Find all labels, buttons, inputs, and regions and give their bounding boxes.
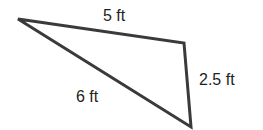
- side-label-hypotenuse: 6 ft: [76, 88, 99, 105]
- triangle: [18, 19, 191, 127]
- side-label-right: 2.5 ft: [199, 71, 235, 88]
- side-label-top: 5 ft: [103, 7, 126, 24]
- triangle-diagram: 5 ft 2.5 ft 6 ft: [0, 0, 263, 130]
